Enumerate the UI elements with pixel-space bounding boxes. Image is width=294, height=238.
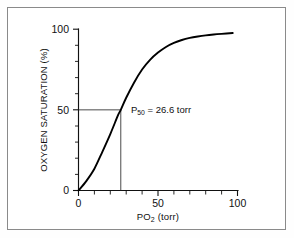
figure-container: 100 50 0 0 50 100 OXYGEN SATURATION (%) …: [0, 0, 294, 238]
y-tick-label-0: 0: [63, 184, 69, 196]
x-axis-title-suffix: (torr): [155, 211, 179, 222]
x-tick-label-0: 0: [76, 197, 82, 209]
svg-text:P50 = 26.6 torr: P50 = 26.6 torr: [131, 104, 191, 116]
chart-plot: 100 50 0 0 50 100 OXYGEN SATURATION (%) …: [0, 0, 294, 238]
y-tick-label-100: 100: [51, 23, 69, 35]
x-axis-title-prefix: PO: [137, 211, 151, 222]
x-axis-ticks: [79, 191, 238, 197]
x-tick-label-100: 100: [229, 197, 247, 209]
svg-text:PO2 (torr): PO2 (torr): [137, 211, 179, 223]
x-axis-title: PO2 (torr): [137, 211, 179, 223]
p50-annotation-suffix: = 26.6 torr: [145, 104, 191, 115]
p50-annotation: P50 = 26.6 torr: [131, 104, 191, 116]
x-tick-label-50: 50: [152, 197, 164, 209]
y-axis-title: OXYGEN SATURATION (%): [38, 48, 49, 172]
y-axis-ticks: [73, 29, 79, 190]
y-tick-label-50: 50: [57, 104, 69, 116]
